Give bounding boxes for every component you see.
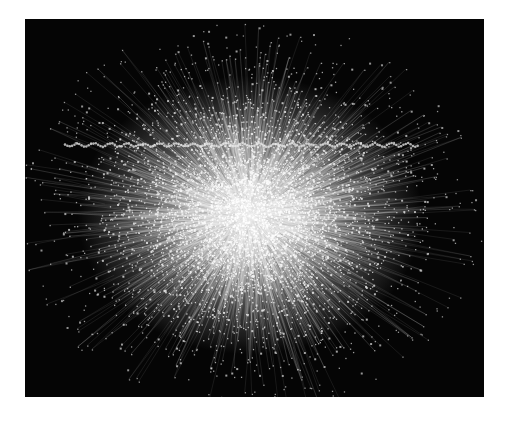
- network-graph-canvas: [25, 19, 484, 397]
- network-graph-frame: [25, 19, 484, 397]
